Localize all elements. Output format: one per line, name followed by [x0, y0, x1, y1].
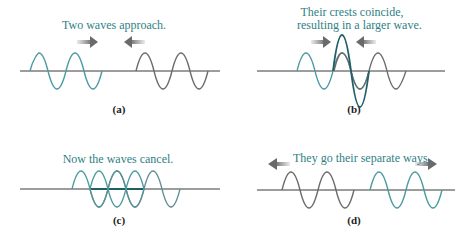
- panel-label-a: (a): [104, 103, 134, 115]
- panel-label-b: (b): [339, 103, 369, 115]
- panel-label-d: (d): [339, 214, 369, 226]
- caption-a: Two waves approach.: [62, 19, 164, 32]
- panel-b: [257, 35, 445, 107]
- caption-c: Now the waves cancel.: [62, 153, 174, 166]
- arrow-left-icon: [124, 36, 145, 48]
- arrow-right-icon: [77, 36, 98, 48]
- panel-c: [20, 171, 220, 207]
- caption-d: They go their separate ways.: [293, 152, 413, 165]
- arrow-left-icon: [268, 158, 290, 170]
- arrow-left-icon: [356, 36, 376, 48]
- wave-interference-figure: [0, 0, 474, 237]
- arrow-right-icon: [311, 36, 331, 48]
- panel-a: [20, 36, 220, 89]
- panel-d: [257, 158, 455, 208]
- caption-b-line2: resulting in a larger wave.: [297, 19, 407, 32]
- panel-label-c: (c): [104, 214, 134, 226]
